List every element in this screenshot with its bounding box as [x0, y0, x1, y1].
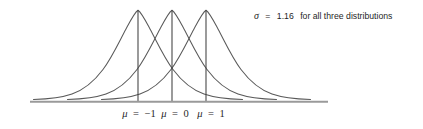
mean-value-neg1: −1 — [145, 108, 156, 119]
sigma-symbol: σ — [254, 10, 260, 21]
sigma-annotation: σ = 1.16 for all three distributions — [254, 10, 393, 21]
equals-sign-0: = — [172, 108, 178, 119]
mu-symbol-0: μ — [160, 108, 166, 119]
tick-label-mu-0: μ = 0 — [160, 108, 189, 119]
equals-sign-neg1: = — [133, 108, 139, 119]
mean-value-1: 1 — [220, 108, 225, 119]
equals-sign-1: = — [208, 108, 214, 119]
mu-symbol-neg1: μ — [121, 108, 127, 119]
mean-value-0: 0 — [184, 108, 189, 119]
mean-lines-group — [138, 10, 206, 101]
sigma-value: 1.16 — [277, 11, 294, 21]
normal-distributions-figure: μ = −1 μ = 0 μ = 1 σ = 1.16 for all thre… — [0, 0, 423, 129]
distribution-chart-svg: μ = −1 μ = 0 μ = 1 σ = 1.16 for all thre… — [0, 0, 423, 129]
tick-label-mu-neg1: μ = −1 — [121, 108, 156, 119]
annotation-equals: = — [265, 11, 270, 21]
tick-label-mu-1: μ = 1 — [196, 108, 225, 119]
annotation-text-tail: for all three distributions — [300, 11, 393, 21]
mu-symbol-1: μ — [196, 108, 202, 119]
axis-tick-labels: μ = −1 μ = 0 μ = 1 — [121, 108, 225, 119]
